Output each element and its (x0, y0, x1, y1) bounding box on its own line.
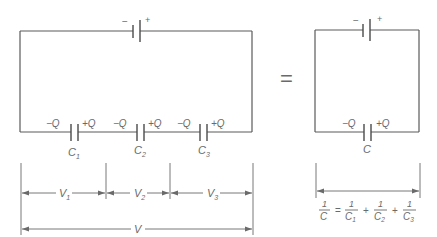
c1-left-charge: −Q (46, 118, 60, 129)
c-label: C (363, 143, 371, 155)
battery-icon (133, 20, 140, 42)
c1-label: C1 (68, 146, 80, 160)
formula-plus-2: + (392, 205, 398, 216)
capacitor-c: −Q +Q C (342, 118, 390, 155)
eq-battery-minus-label: − (353, 15, 359, 26)
formula-term2-num: 1 (378, 199, 383, 209)
circuit-diagram: − + −Q +Q C1 −Q +Q C2 −Q (0, 0, 437, 237)
formula-term3-den: C3 (403, 211, 414, 223)
eq-battery-icon (363, 19, 370, 41)
capacitor-c2: −Q +Q C2 (113, 118, 162, 158)
capacitor-c1: −Q +Q C1 (46, 118, 96, 160)
voltage-dimensions: V1 V2 V3 V (21, 163, 253, 235)
v3-label: V3 (207, 187, 218, 201)
formula-lhs-den: C (320, 211, 328, 222)
equivalent-circuit: − + −Q +Q C 1 C = 1 C1 (315, 14, 420, 223)
c3-left-charge: −Q (177, 118, 191, 129)
formula-term1-num: 1 (349, 199, 354, 209)
equivalent-dimension (316, 163, 420, 198)
c-right-charge: +Q (376, 118, 390, 129)
c3-right-charge: +Q (211, 118, 225, 129)
capacitor-c3: −Q +Q C3 (177, 118, 225, 158)
formula-plus-1: + (363, 205, 369, 216)
formula-term1-den: C1 (345, 211, 356, 223)
series-capacitance-formula: 1 C = 1 C1 + 1 C2 + 1 C3 (319, 199, 416, 223)
formula-term3-num: 1 (407, 199, 412, 209)
v-total-label: V (134, 223, 143, 235)
c2-label: C2 (134, 144, 146, 158)
formula-equals: = (335, 205, 341, 216)
v1-label: V1 (59, 187, 70, 201)
c2-right-charge: +Q (148, 118, 162, 129)
v2-label: V2 (134, 187, 145, 201)
battery-plus-label: + (145, 15, 150, 25)
series-circuit: − + −Q +Q C1 −Q +Q C2 −Q (20, 15, 253, 235)
equals-sign: = (280, 66, 293, 91)
c1-right-charge: +Q (82, 118, 96, 129)
c-left-charge: −Q (342, 118, 356, 129)
formula-term2-den: C2 (374, 211, 385, 223)
c3-label: C3 (198, 144, 210, 158)
eq-battery-plus-label: + (377, 14, 382, 24)
battery-minus-label: − (122, 16, 128, 27)
c2-left-charge: −Q (113, 118, 127, 129)
formula-lhs-num: 1 (322, 199, 327, 209)
